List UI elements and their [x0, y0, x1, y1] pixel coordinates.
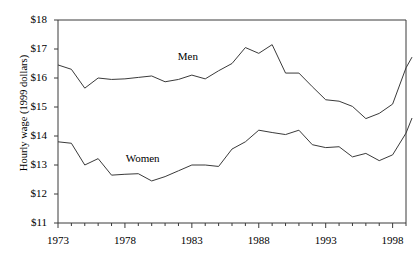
x-axis-ticks [58, 223, 406, 228]
y-tick-label: $12 [13, 188, 47, 199]
axes [58, 20, 406, 223]
y-tick-label: $17 [13, 43, 47, 54]
series-label-men: Men [178, 51, 198, 62]
y-tick-label: $14 [13, 130, 47, 141]
y-tick-label: $18 [13, 14, 47, 25]
y-tick-label: $11 [13, 217, 47, 228]
y-axis-ticks [54, 20, 58, 223]
x-tick-label: 1978 [105, 235, 145, 246]
x-tick-label: 1998 [373, 235, 413, 246]
series-line-women [58, 118, 412, 181]
x-tick-label: 1988 [239, 235, 279, 246]
series-line-men [58, 45, 412, 119]
wage-line-chart-figure: Hourly wage (1999 dollars) $18$17$16$15$… [0, 0, 418, 263]
x-tick-label: 1983 [172, 235, 212, 246]
y-tick-label: $15 [13, 101, 47, 112]
x-tick-label: 1973 [38, 235, 78, 246]
data-series-lines [58, 45, 412, 181]
series-label-women: Women [126, 153, 160, 164]
x-tick-label: 1993 [306, 235, 346, 246]
y-tick-label: $13 [13, 159, 47, 170]
plot-canvas [0, 0, 418, 263]
y-tick-label: $16 [13, 72, 47, 83]
